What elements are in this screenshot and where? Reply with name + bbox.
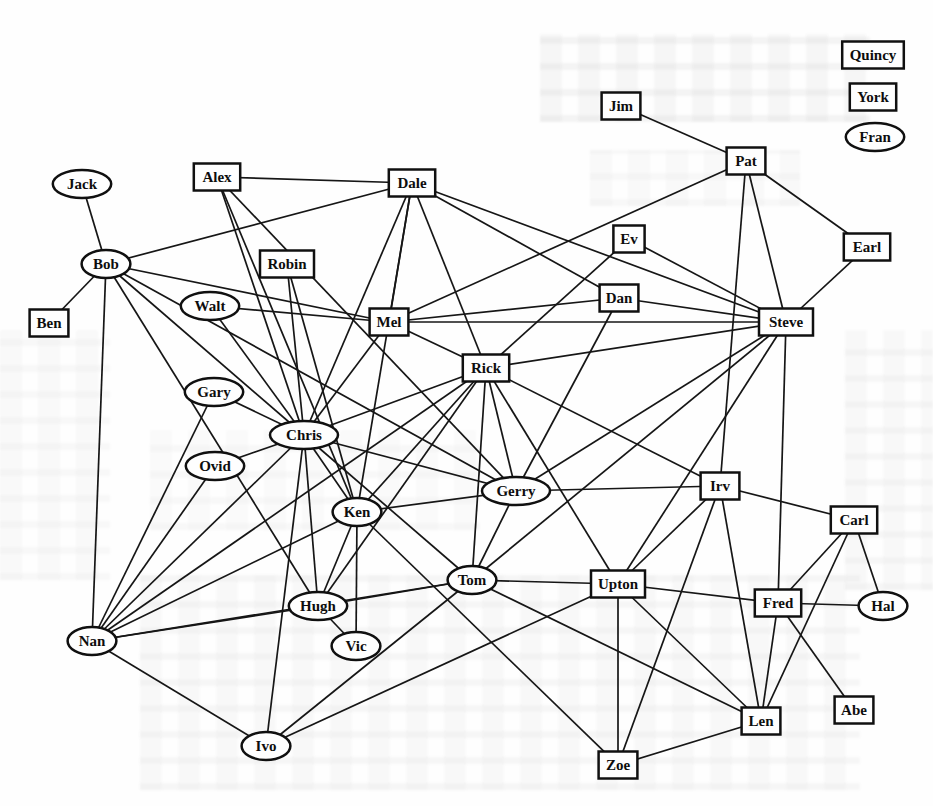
node-gary: Gary — [185, 378, 243, 406]
node-york: York — [850, 84, 896, 111]
node-dan: Dan — [600, 285, 639, 312]
node-label: Ken — [344, 504, 371, 520]
node-label: Steve — [769, 314, 803, 330]
edge-irv-zoe — [618, 486, 720, 765]
edge-tom-len — [472, 580, 761, 721]
node-gerry: Gerry — [482, 477, 550, 505]
edge-pat-mel — [389, 161, 746, 322]
edge-zoe-len — [618, 721, 761, 765]
node-label: Irv — [710, 478, 730, 494]
node-rick: Rick — [463, 355, 509, 382]
node-ben: Ben — [30, 310, 69, 337]
node-label: Zoe — [606, 757, 631, 773]
node-label: Earl — [853, 239, 881, 255]
node-label: Alex — [202, 169, 232, 185]
edge-pat-irv — [720, 161, 746, 486]
node-label: Dan — [606, 290, 633, 306]
node-label: Jack — [67, 176, 98, 192]
node-len: Len — [742, 708, 781, 735]
edge-ken-vic — [356, 512, 357, 646]
node-bob: Bob — [82, 250, 131, 278]
node-label: Ivo — [256, 738, 277, 754]
node-steve: Steve — [759, 309, 813, 336]
scanned-figure-page: QuincyYorkFranJimPatJackAlexDaleEvEarlBo… — [0, 0, 933, 806]
node-label: Pat — [735, 153, 757, 169]
edge-robin-ken — [287, 264, 357, 512]
node-alex: Alex — [194, 164, 240, 191]
node-ovid: Ovid — [186, 452, 244, 480]
node-nan: Nan — [68, 627, 117, 655]
edge-rick-steve — [486, 322, 786, 368]
node-label: Gary — [197, 384, 231, 400]
node-zoe: Zoe — [599, 752, 638, 779]
node-label: Ben — [36, 315, 62, 331]
edge-alex-dale — [217, 177, 412, 183]
edge-chris-ivo — [266, 435, 304, 746]
node-label: Fred — [763, 595, 794, 611]
edge-dan-mel — [389, 298, 619, 322]
edge-rick-nan — [92, 368, 486, 641]
edge-gary-nan — [92, 392, 214, 641]
node-label: Tom — [458, 572, 487, 588]
node-earl: Earl — [844, 234, 890, 261]
network-figure: QuincyYorkFranJimPatJackAlexDaleEvEarlBo… — [0, 0, 933, 806]
node-label: Abe — [841, 702, 867, 718]
edge-mel-chris — [304, 322, 389, 435]
node-label: Mel — [377, 314, 402, 330]
node-label: Quincy — [850, 47, 897, 63]
edge-chris-hugh — [304, 435, 318, 606]
edge-hugh-nan — [92, 606, 318, 641]
node-label: Ev — [620, 231, 638, 247]
node-label: Hugh — [300, 598, 337, 614]
node-hugh: Hugh — [289, 592, 347, 620]
node-label: Nan — [79, 633, 106, 649]
node-label: Upton — [598, 576, 639, 592]
node-label: York — [857, 89, 889, 105]
edge-dale-dan — [412, 183, 619, 298]
node-pat: Pat — [727, 148, 766, 175]
node-label: Len — [748, 713, 774, 729]
edge-ken-nan — [92, 512, 357, 641]
edge-nan-ivo — [92, 641, 266, 746]
edge-dale-rick — [412, 183, 486, 368]
edge-bob-gerry — [106, 264, 516, 491]
node-upton: Upton — [591, 571, 645, 598]
node-fred: Fred — [755, 590, 801, 617]
edge-alex-gerry — [217, 177, 516, 491]
edge-fred-steve — [778, 322, 786, 603]
node-hal: Hal — [859, 592, 908, 620]
node-irv: Irv — [701, 473, 740, 500]
edge-tom-steve — [472, 322, 786, 580]
node-label: Dale — [397, 175, 427, 191]
node-dale: Dale — [389, 170, 435, 197]
node-label: Gerry — [496, 483, 536, 499]
edge-rick-gerry — [486, 368, 516, 491]
node-carl: Carl — [831, 507, 877, 534]
node-label: Fran — [859, 129, 891, 145]
node-vic: Vic — [332, 632, 381, 660]
edge-gerry-steve — [516, 322, 786, 491]
node-jim: Jim — [602, 93, 641, 120]
node-robin: Robin — [260, 251, 314, 278]
node-label: Rick — [471, 360, 502, 376]
node-label: Ovid — [199, 458, 231, 474]
node-fran: Fran — [846, 123, 904, 151]
node-tom: Tom — [448, 566, 497, 594]
node-ivo: Ivo — [242, 732, 291, 760]
node-ken: Ken — [333, 498, 382, 526]
node-label: Jim — [609, 98, 634, 114]
edge-dale-ken — [357, 183, 412, 512]
node-chris: Chris — [270, 421, 338, 449]
edge-fred-abe — [778, 603, 854, 710]
node-jack: Jack — [53, 170, 111, 198]
node-label: Robin — [267, 256, 307, 272]
edge-ovid-nan — [92, 466, 215, 641]
node-walt: Walt — [181, 292, 239, 320]
node-abe: Abe — [835, 697, 874, 724]
node-label: Bob — [93, 256, 119, 272]
edge-bob-nan — [92, 264, 106, 641]
node-label: Hal — [871, 598, 894, 614]
edge-upton-steve — [618, 322, 786, 584]
edge-upton-len — [618, 584, 761, 721]
node-label: Carl — [839, 512, 868, 528]
